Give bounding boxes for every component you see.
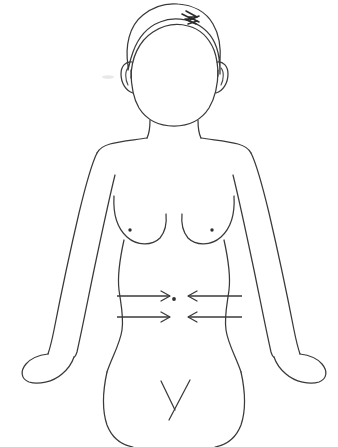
arrow-left-upper (117, 291, 170, 301)
arrows-group (117, 291, 242, 322)
hair-part-scribble (182, 11, 199, 24)
right-arm-outer (251, 153, 300, 354)
right-breast (182, 196, 234, 244)
neck-left (147, 120, 150, 138)
left-arm-inner (74, 175, 115, 357)
faint-artifact-mark (102, 75, 114, 79)
left-hand (22, 354, 74, 383)
arrow-right-lower (188, 312, 242, 322)
head-group (102, 4, 228, 126)
chest-group (114, 196, 234, 244)
arms-group (22, 153, 326, 383)
face-outline (131, 70, 218, 126)
navel-dot (172, 297, 176, 301)
left-hip (104, 372, 133, 447)
right-hip (215, 372, 244, 447)
right-arm-inner (233, 175, 274, 357)
groin-line-left (161, 381, 175, 410)
right-shoulder (201, 138, 251, 153)
groin-line-right (169, 380, 190, 420)
left-ear-inner (126, 68, 128, 85)
left-breast (114, 196, 166, 244)
right-ear-inner (221, 68, 223, 85)
left-arm-outer (48, 153, 97, 354)
left-shoulder (97, 138, 147, 153)
neck-right (198, 120, 201, 138)
torso-right-side (224, 240, 241, 372)
arrow-right-upper (188, 291, 242, 301)
hips-group (104, 372, 245, 447)
right-hand (274, 354, 326, 383)
arrow-left-lower (117, 312, 170, 322)
body-diagram-svg (0, 0, 338, 447)
anatomical-figure-container: Outline drawing of a female upper body, … (0, 0, 338, 447)
left-nipple-dot (128, 228, 131, 231)
torso-left-side (107, 240, 124, 372)
torso-group (107, 240, 241, 372)
hair-outline (127, 4, 220, 74)
neck-shoulders-group (97, 120, 251, 153)
right-nipple-dot (210, 228, 213, 231)
